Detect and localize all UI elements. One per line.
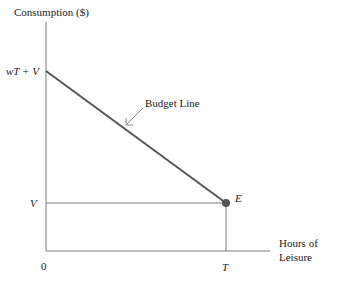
budget-line-arrow xyxy=(126,108,143,125)
x-axis-label-line2: Leisure xyxy=(279,252,312,263)
x-axis-label-line1: Hours of xyxy=(279,238,318,249)
x-tick-origin-label: 0 xyxy=(41,261,47,272)
y-tick-top-label: wT + V xyxy=(6,66,39,77)
budget-constraint-diagram: Consumption ($) wT + V V Budget Line E 0… xyxy=(0,0,337,281)
y-tick-bottom-label: V xyxy=(30,198,37,209)
endowment-point xyxy=(222,199,230,207)
budget-line-label: Budget Line xyxy=(145,98,200,109)
y-axis-label: Consumption ($) xyxy=(14,7,89,18)
budget-line xyxy=(46,71,226,203)
endowment-point-label: E xyxy=(235,193,242,204)
x-tick-end-label: T xyxy=(222,262,228,273)
